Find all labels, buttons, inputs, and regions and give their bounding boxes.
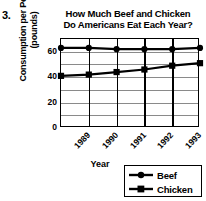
legend-item-chicken: Chicken xyxy=(128,182,198,196)
data-point-beef-1992 xyxy=(141,46,147,52)
y-tick-label: 40 xyxy=(36,71,57,81)
data-point-chicken-1993 xyxy=(169,63,175,69)
data-point-beef-1994 xyxy=(197,45,203,51)
data-point-chicken-1989 xyxy=(58,73,64,79)
y-tick-label: 0 xyxy=(36,122,57,132)
x-tick-label: 1993 xyxy=(183,130,203,151)
x-tick-label: 1989 xyxy=(72,130,92,151)
legend-label-chicken: Chicken xyxy=(157,184,193,195)
x-tick-label: 1992 xyxy=(155,130,175,151)
chart-legend: Beef Chicken xyxy=(124,165,202,197)
series-line-beef xyxy=(61,48,200,49)
plot-area xyxy=(60,38,199,127)
legend-item-beef: Beef xyxy=(128,168,198,182)
x-tick-label: 1990 xyxy=(100,130,120,151)
y-axis-title-line-1: Consumption per Person xyxy=(18,0,29,94)
question-number: 3. xyxy=(2,9,11,21)
data-point-beef-1990 xyxy=(86,45,92,51)
data-point-chicken-1994 xyxy=(197,60,203,66)
data-point-chicken-1991 xyxy=(114,69,120,75)
legend-marker-circle-icon xyxy=(128,169,154,181)
y-tick-label: 20 xyxy=(36,97,57,107)
chart-figure: 3. How Much Beef and Chicken Do American… xyxy=(0,0,206,201)
data-point-chicken-1990 xyxy=(86,72,92,78)
data-point-chicken-1992 xyxy=(141,66,147,72)
data-point-beef-1993 xyxy=(169,46,175,52)
data-point-beef-1991 xyxy=(114,46,120,52)
series-layer xyxy=(61,39,200,128)
chart-title-line-2: Do Americans Eat Each Year? xyxy=(52,19,204,30)
series-line-chicken xyxy=(61,63,200,76)
legend-label-beef: Beef xyxy=(157,170,177,181)
x-tick-label: 1991 xyxy=(128,130,148,151)
y-tick-label: 60 xyxy=(36,46,57,56)
data-point-beef-1989 xyxy=(58,45,64,51)
chart-title-line-1: How Much Beef and Chicken xyxy=(52,8,204,19)
chart-title: How Much Beef and Chicken Do Americans E… xyxy=(52,8,204,30)
legend-marker-square-icon xyxy=(128,183,154,195)
